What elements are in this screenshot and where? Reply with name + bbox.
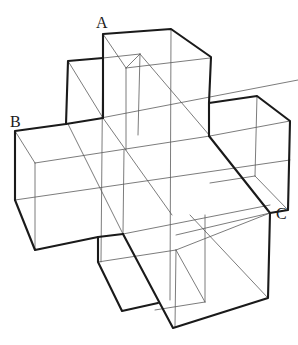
vertex-label-b: B	[10, 113, 21, 130]
inner-edges	[15, 29, 298, 327]
vertex-label-a: A	[96, 14, 108, 31]
outline-edges	[15, 29, 290, 328]
vertex-label-c: C	[276, 205, 287, 222]
cross-cube-diagram: A B C	[0, 0, 298, 345]
